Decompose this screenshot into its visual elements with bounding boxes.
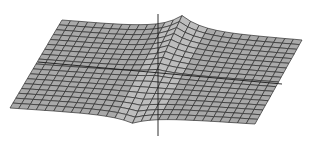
surface-plot bbox=[0, 0, 317, 145]
wireframe-surface bbox=[0, 0, 317, 145]
mesh-faces bbox=[10, 16, 302, 124]
